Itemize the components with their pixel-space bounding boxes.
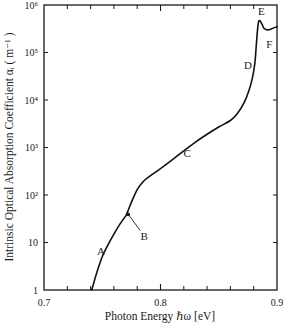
y-tick-label: 10² [25, 190, 38, 201]
annotation-arrow-line [129, 215, 140, 231]
y-axis-title: Intrinsic Optical Absorption Coefficient… [3, 32, 16, 261]
y-tick-label: 10⁵ [25, 47, 39, 58]
x-axis-tick-labels: 0.70.80.9 [38, 297, 284, 308]
annotation-arrow-head [126, 213, 130, 217]
curve-label-b: B [141, 230, 148, 242]
curve-label-f: F [266, 38, 272, 50]
y-axis-ticks [44, 53, 277, 243]
curve-label-e: E [258, 5, 265, 17]
x-axis-title: Photon Energy ℏω [eV] [105, 310, 215, 323]
x-axis-ticks [67, 5, 253, 290]
curve-label-c: C [184, 147, 191, 159]
y-tick-label: 10⁶ [25, 0, 39, 11]
y-axis-tick-labels: 11010²10³10⁴10⁵10⁶ [25, 0, 39, 296]
y-tick-label: 10⁴ [25, 95, 39, 106]
x-tick-label: 0.9 [271, 297, 284, 308]
plot-frame [44, 5, 277, 290]
y-tick-label: 10 [28, 237, 38, 248]
y-tick-label: 1 [33, 285, 38, 296]
y-tick-label: 10³ [25, 142, 38, 153]
x-tick-label: 0.8 [154, 297, 167, 308]
curve-label-a: A [97, 245, 105, 257]
absorption-chart: 0.70.80.9 11010²10³10⁴10⁵10⁶ ABCDEF Phot… [0, 0, 285, 330]
curve-label-d: D [244, 59, 252, 71]
x-tick-label: 0.7 [38, 297, 51, 308]
